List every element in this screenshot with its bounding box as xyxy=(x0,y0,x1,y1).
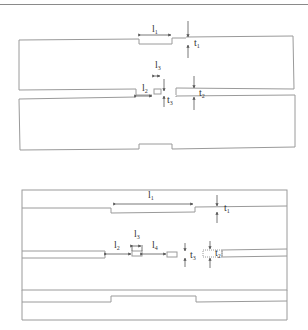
bottom-lower-profile xyxy=(22,296,287,302)
bottom-left-strip xyxy=(22,251,105,258)
bottom-small-rect-2 xyxy=(167,252,177,257)
bottom-small-rect-1 xyxy=(132,251,142,256)
label-t3-top: t3 xyxy=(167,94,173,106)
label-t2-bottom: t2 xyxy=(215,247,221,259)
label-l1-top: l1 xyxy=(152,23,158,35)
label-t2-top: t2 xyxy=(199,87,205,99)
label-l3-top: l3 xyxy=(155,59,161,71)
label-l2-bottom: l2 xyxy=(114,239,120,251)
label-l1-bottom: l1 xyxy=(148,189,154,201)
label-t3-bottom: t3 xyxy=(190,249,196,261)
label-l4-bottom: l4 xyxy=(152,239,158,251)
label-t1-bottom: t1 xyxy=(224,202,230,214)
top-panel-lower-block xyxy=(19,95,295,150)
label-t1-top: t1 xyxy=(194,37,200,49)
diagram-layer: l1 t1 l3 l2 t3 t2 l1 t1 l2 l3 l4 t3 t2 xyxy=(0,0,308,330)
bottom-right-strip xyxy=(222,249,287,257)
top-small-feature xyxy=(154,89,161,94)
bottom-upper-profile xyxy=(22,206,287,213)
label-l3-bottom: l3 xyxy=(134,228,140,240)
label-l2-top: l2 xyxy=(142,82,148,94)
